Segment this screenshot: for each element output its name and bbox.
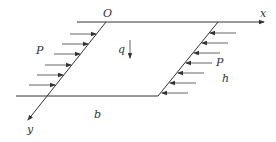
distributed-load-label: q bbox=[118, 43, 125, 56]
right-load-label: P bbox=[215, 56, 224, 69]
x-axis-label: x bbox=[260, 7, 267, 20]
plate-diagram: O x y P P q b h bbox=[0, 0, 276, 142]
y-axis-label: y bbox=[26, 123, 34, 136]
height-label: h bbox=[222, 72, 229, 85]
left-load-label: P bbox=[35, 44, 44, 57]
right-edge bbox=[158, 22, 218, 96]
y-axis bbox=[28, 22, 106, 120]
diagram-svg: O x y P P q b h bbox=[0, 0, 276, 142]
width-label: b bbox=[94, 108, 101, 121]
origin-label: O bbox=[103, 7, 112, 20]
